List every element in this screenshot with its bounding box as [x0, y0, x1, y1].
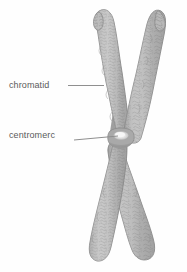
- chromatid-arm-upper-left: [93, 10, 129, 138]
- chromosome-diagram-page: chromatid centromerc: [0, 0, 187, 272]
- label-centromere: centromerc: [9, 131, 55, 140]
- chromatid-arm-upper-right: [124, 10, 166, 143]
- label-chromatid: chromatid: [9, 81, 49, 90]
